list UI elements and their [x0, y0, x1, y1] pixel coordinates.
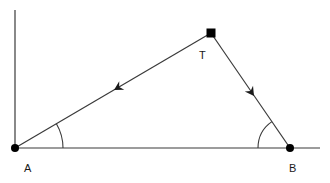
label-b: B — [289, 162, 296, 174]
point-a — [11, 144, 19, 152]
arrow-toward-b-icon — [245, 86, 258, 99]
label-t: T — [199, 49, 206, 61]
edge-t-to-a — [15, 33, 211, 148]
angle-arc-a — [56, 124, 63, 148]
edge-t-to-b — [211, 33, 290, 148]
point-t — [207, 29, 216, 38]
point-b — [286, 144, 294, 152]
label-a: A — [24, 162, 32, 174]
arrow-toward-a-icon — [111, 81, 124, 94]
triangle-diagram: A B T — [0, 0, 330, 183]
angle-arc-b — [258, 122, 272, 148]
